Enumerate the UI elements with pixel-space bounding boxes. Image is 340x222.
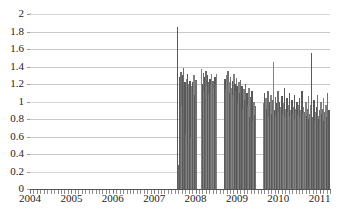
x-axis-tick-label: 2007 (143, 193, 165, 204)
x-axis-tick-mark (154, 190, 155, 193)
y-axis-tick-mark (27, 84, 30, 85)
y-axis-tick-label: 1.6 (10, 43, 24, 54)
x-axis-tick-mark (71, 190, 72, 193)
y-axis-tick-label: 2 (19, 8, 25, 19)
bar (216, 74, 218, 189)
bar (195, 80, 197, 189)
y-axis-tick-label: 1.2 (10, 78, 24, 89)
gridline (30, 67, 330, 68)
x-axis-tick-labels: 20042005200620072008200920102011 (0, 193, 340, 211)
y-axis-tick-mark (27, 172, 30, 173)
y-axis-tick-label: 1.4 (10, 61, 24, 72)
x-axis-tick-label: 2009 (226, 193, 248, 204)
x-axis-tick-mark (196, 190, 197, 193)
x-axis-tick-mark (320, 190, 321, 193)
gridline (30, 32, 330, 33)
y-axis-tick-label: 0.6 (10, 131, 24, 142)
gridline (30, 49, 330, 50)
y-axis-tick-mark (27, 154, 30, 155)
y-axis-tick-mark (27, 137, 30, 138)
bar (255, 106, 257, 189)
y-axis-tick-labels: 00.20.40.60.811.21.41.61.82 (0, 0, 28, 222)
y-axis-tick-mark (27, 67, 30, 68)
x-axis-tick-label: 2004 (19, 193, 41, 204)
x-axis-tick-label: 2005 (60, 193, 82, 204)
x-axis-tick-label: 2010 (267, 193, 289, 204)
bar (328, 110, 330, 189)
chart-container: 00.20.40.60.811.21.41.61.82 200420052006… (0, 0, 340, 222)
x-axis-tick-mark (30, 190, 31, 193)
y-axis-tick-label: 0.4 (10, 148, 24, 159)
x-axis-tick-label: 2011 (309, 193, 331, 204)
y-axis-tick-mark (27, 32, 30, 33)
y-axis-tick-label: 0.2 (10, 166, 24, 177)
plot-area (30, 14, 330, 189)
y-axis-tick-label: 0.8 (10, 113, 24, 124)
y-axis-tick-mark (27, 14, 30, 15)
x-axis-tick-mark (237, 190, 238, 193)
y-axis-tick-label: 1 (19, 96, 25, 107)
x-axis-tick-label: 2006 (102, 193, 124, 204)
gridline (30, 14, 330, 15)
y-axis-tick-mark (27, 49, 30, 50)
x-axis-tick-mark (113, 190, 114, 193)
y-axis-tick-label: 1.8 (10, 26, 24, 37)
x-axis-tick-mark (278, 190, 279, 193)
y-axis-tick-mark (27, 119, 30, 120)
x-axis-tick-label: 2008 (185, 193, 207, 204)
y-axis-tick-mark (27, 102, 30, 103)
